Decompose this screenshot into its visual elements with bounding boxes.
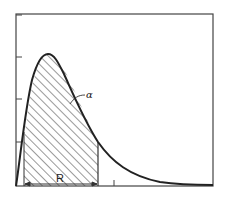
- y-axis-ticks: [16, 15, 22, 142]
- range-label: R: [56, 172, 64, 184]
- alpha-label: α: [86, 89, 93, 100]
- chart-figure: α R: [0, 0, 226, 199]
